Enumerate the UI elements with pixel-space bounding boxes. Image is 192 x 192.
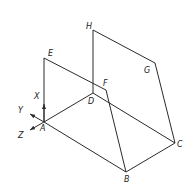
- label-g: G: [144, 66, 150, 75]
- y-axis-arrow: [30, 114, 44, 122]
- edge-g-c: [155, 63, 175, 143]
- label-b: B: [124, 175, 130, 184]
- label-e: E: [48, 49, 54, 58]
- label-z-axis: Z: [17, 131, 24, 140]
- edge-h-g: [93, 30, 155, 63]
- vertex-labels: A B C D E F G H: [39, 22, 183, 184]
- isometric-solid-drawing: A B C D E F G H X Y Z: [0, 0, 192, 192]
- label-f: F: [103, 79, 108, 88]
- label-y-axis: Y: [18, 106, 24, 115]
- label-c: C: [177, 140, 183, 149]
- label-x-axis: X: [33, 92, 40, 101]
- edge-a-d: [44, 93, 93, 122]
- label-a: A: [39, 124, 45, 133]
- label-d: D: [88, 97, 94, 106]
- axis-labels: X Y Z: [17, 92, 40, 140]
- diagram-canvas: A B C D E F G H X Y Z: [0, 0, 192, 192]
- edge-d-c: [93, 93, 175, 143]
- edge-b-c: [126, 143, 175, 172]
- solid-edges: [44, 30, 175, 172]
- label-h: H: [86, 22, 92, 31]
- edge-a-b: [44, 122, 126, 172]
